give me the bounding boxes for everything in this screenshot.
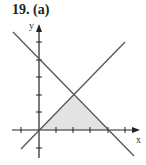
shaded-region (39, 95, 108, 130)
y-axis-label: y (29, 20, 34, 31)
x-axis-arrow-icon (132, 127, 140, 133)
graph: x y (0, 0, 146, 165)
y-axis-arrow-icon (36, 24, 42, 32)
x-axis-label: x (136, 134, 141, 145)
